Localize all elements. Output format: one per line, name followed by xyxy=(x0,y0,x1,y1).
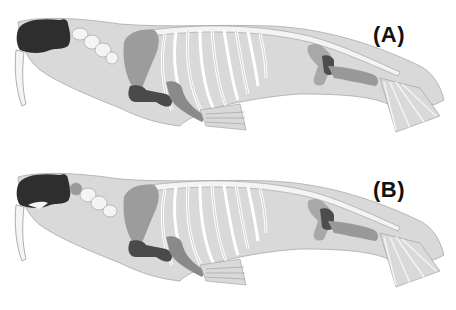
panel-label-a: (A) xyxy=(373,22,405,48)
skull xyxy=(17,19,71,53)
tusk xyxy=(15,50,26,106)
panel-a: (A) xyxy=(0,0,456,155)
panel-b: (B) xyxy=(0,155,456,310)
tusk xyxy=(15,205,26,261)
panel-label-b: (B) xyxy=(373,177,405,203)
